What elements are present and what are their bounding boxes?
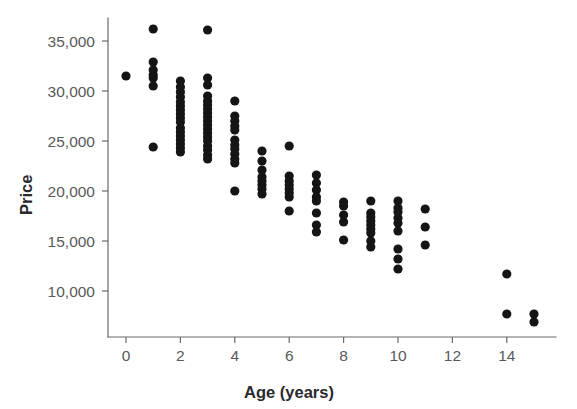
data-point bbox=[421, 240, 430, 249]
data-point bbox=[203, 25, 212, 34]
data-point bbox=[149, 142, 158, 151]
data-point bbox=[149, 81, 158, 90]
data-point bbox=[203, 154, 212, 163]
scatter-plot-figure: 10,00015,00020,00025,00030,00035,000 024… bbox=[0, 0, 577, 409]
data-point bbox=[121, 71, 130, 80]
data-point bbox=[285, 141, 294, 150]
data-point bbox=[529, 317, 538, 326]
data-point bbox=[176, 147, 185, 156]
data-point bbox=[339, 217, 348, 226]
data-point bbox=[230, 158, 239, 167]
data-point bbox=[285, 192, 294, 201]
x-axis-ticks: 02468101214 bbox=[122, 337, 516, 364]
data-point bbox=[421, 204, 430, 213]
data-point bbox=[230, 96, 239, 105]
data-point bbox=[257, 189, 266, 198]
data-point bbox=[149, 24, 158, 33]
data-point bbox=[421, 222, 430, 231]
data-point bbox=[339, 201, 348, 210]
x-tick-label: 12 bbox=[444, 347, 461, 364]
y-axis-title: Price bbox=[17, 175, 35, 215]
y-tick-label: 25,000 bbox=[48, 133, 96, 150]
data-point bbox=[285, 206, 294, 215]
data-point bbox=[230, 125, 239, 134]
y-axis-ticks: 10,00015,00020,00025,00030,00035,000 bbox=[48, 33, 108, 300]
data-point bbox=[393, 244, 402, 253]
x-tick-label: 0 bbox=[122, 347, 131, 364]
data-point bbox=[257, 156, 266, 165]
y-tick-label: 20,000 bbox=[48, 183, 96, 200]
chart-canvas: 10,00015,00020,00025,00030,00035,000 024… bbox=[0, 0, 577, 409]
x-tick-label: 4 bbox=[230, 347, 239, 364]
y-tick-label: 15,000 bbox=[48, 233, 96, 250]
data-point bbox=[393, 254, 402, 263]
data-point bbox=[257, 146, 266, 155]
data-point bbox=[366, 196, 375, 205]
data-points bbox=[121, 24, 538, 326]
data-point bbox=[230, 186, 239, 195]
x-tick-label: 8 bbox=[339, 347, 348, 364]
data-point bbox=[393, 264, 402, 273]
data-point bbox=[312, 227, 321, 236]
data-point bbox=[203, 80, 212, 89]
data-point bbox=[529, 309, 538, 318]
data-point bbox=[366, 228, 375, 237]
y-tick-label: 30,000 bbox=[48, 83, 96, 100]
y-tick-label: 10,000 bbox=[48, 283, 96, 300]
x-tick-label: 10 bbox=[389, 347, 407, 364]
data-point bbox=[149, 57, 158, 66]
x-tick-label: 2 bbox=[176, 347, 185, 364]
y-tick-label: 35,000 bbox=[48, 33, 96, 50]
data-point bbox=[393, 218, 402, 227]
data-point bbox=[149, 73, 158, 82]
data-point bbox=[312, 170, 321, 179]
data-point bbox=[502, 269, 511, 278]
data-point bbox=[393, 226, 402, 235]
data-point bbox=[366, 242, 375, 251]
x-axis-title: Age (years) bbox=[244, 383, 334, 401]
data-point bbox=[502, 309, 511, 318]
x-tick-label: 6 bbox=[285, 347, 294, 364]
data-point bbox=[312, 208, 321, 217]
data-point bbox=[312, 196, 321, 205]
x-tick-label: 14 bbox=[498, 347, 516, 364]
data-point bbox=[339, 235, 348, 244]
